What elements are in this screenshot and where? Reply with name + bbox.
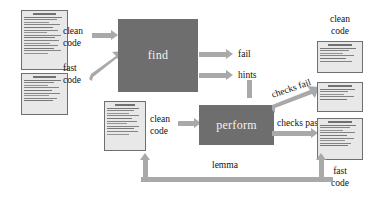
code-block-input-fast-code: [21, 73, 68, 115]
code-block-title-bar: [115, 104, 136, 106]
process-box-find-label: find: [148, 48, 169, 63]
arrow-shaft: [247, 80, 252, 98]
code-line: [320, 53, 343, 54]
code-line: [320, 145, 348, 146]
code-block-middle-clean-code: [104, 101, 146, 151]
arrow-checks-pass: [272, 128, 320, 138]
arrow-head-left: [140, 153, 150, 160]
code-line: [320, 140, 345, 141]
arrow-head: [111, 30, 118, 40]
arrow-shaft-left-riser: [143, 160, 148, 180]
arrow-shaft-bottom: [141, 177, 333, 182]
code-line: [107, 134, 129, 135]
arrow-shaft: [199, 73, 227, 78]
code-block-title-bar: [33, 76, 57, 78]
code-line: [320, 127, 350, 128]
code-line: [24, 43, 50, 44]
code-line: [24, 53, 48, 54]
arrow-find-fail: [199, 49, 235, 59]
code-line: [320, 61, 352, 62]
code-line: [320, 94, 344, 95]
code-line: [24, 90, 52, 91]
code-line: [320, 48, 356, 49]
arrow-hints-down-to-perform: [244, 80, 254, 102]
code-line: [107, 110, 134, 111]
arrow-head-right: [316, 153, 326, 160]
code-line: [320, 99, 347, 100]
code-line: [320, 50, 349, 51]
code-line: [24, 30, 58, 31]
code-line: [24, 95, 49, 96]
arrow-shaft: [199, 52, 227, 57]
code-block-output-clean-code: [317, 41, 363, 73]
code-line: [24, 32, 47, 33]
output-label-clean-code: clean code: [318, 14, 362, 37]
code-line: [107, 123, 127, 124]
code-block-title-bar: [328, 85, 351, 87]
code-line: [24, 100, 53, 101]
code-line: [24, 80, 61, 81]
arrow-shaft-right-riser: [319, 160, 324, 180]
arrow-shaft: [92, 33, 112, 38]
arrow-head: [226, 70, 233, 80]
code-line: [24, 37, 55, 38]
arrow-head: [226, 49, 233, 59]
code-line: [24, 85, 48, 86]
code-block-title-bar: [328, 44, 351, 46]
code-line: [24, 24, 60, 25]
code-line: [24, 35, 61, 36]
edge-label-fail: fail: [238, 49, 251, 60]
code-line: [107, 108, 139, 109]
process-box-perform[interactable]: perform: [199, 105, 274, 145]
code-line: [107, 121, 137, 122]
code-line: [24, 82, 54, 83]
code-line: [320, 91, 348, 92]
process-box-perform-label: perform: [216, 118, 257, 133]
arrow-clean-code-to-find: [92, 30, 119, 40]
diagram-canvas: clean code fast code find fail hints: [0, 0, 377, 205]
code-line: [24, 22, 49, 23]
code-line: [320, 58, 346, 59]
code-block-input-clean-code: [21, 10, 68, 70]
code-line: [320, 138, 354, 139]
code-line: [107, 131, 138, 132]
code-line: [107, 128, 134, 129]
code-line: [320, 130, 343, 131]
arrow-shaft: [178, 121, 195, 126]
code-line: [320, 125, 356, 126]
code-line: [320, 55, 354, 56]
code-block-title-bar: [33, 13, 57, 15]
code-line: [24, 19, 57, 20]
code-block-title-bar: [328, 121, 351, 123]
arrow-find-hints: [199, 70, 235, 80]
code-line: [107, 113, 129, 114]
code-line: [24, 27, 53, 28]
code-line: [24, 93, 60, 94]
code-line: [320, 143, 351, 144]
code-line: [320, 135, 347, 136]
code-line: [320, 132, 355, 133]
edge-label-lemma: lemma: [212, 160, 238, 171]
code-line: [107, 126, 139, 127]
process-box-find[interactable]: find: [118, 19, 198, 92]
code-line: [24, 48, 54, 49]
code-line: [24, 98, 57, 99]
code-line: [320, 96, 354, 97]
code-line: [24, 17, 62, 18]
code-line: [24, 45, 58, 46]
code-line: [24, 40, 59, 41]
code-line: [107, 118, 132, 119]
arrow-shaft: [272, 131, 312, 136]
code-line: [24, 87, 59, 88]
code-line: [107, 115, 139, 116]
code-line: [320, 89, 355, 90]
code-block-output-checks-fail: [317, 82, 363, 112]
code-line: [24, 50, 61, 51]
